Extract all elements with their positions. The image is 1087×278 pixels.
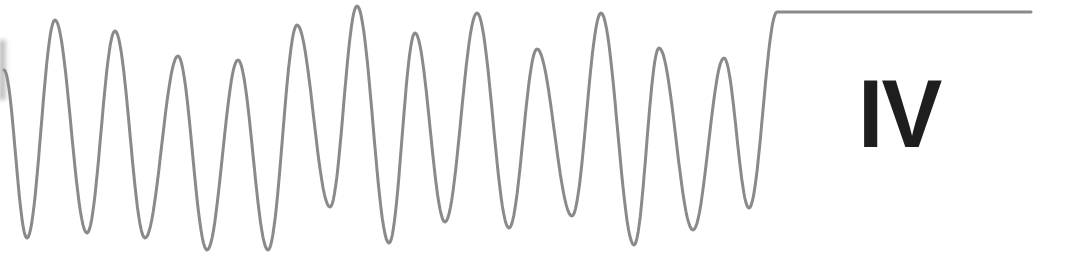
panel-label: IV bbox=[858, 66, 940, 162]
waveform-figure: IV bbox=[0, 0, 1087, 278]
